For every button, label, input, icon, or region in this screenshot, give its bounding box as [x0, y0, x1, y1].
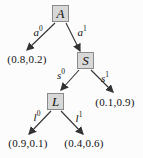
- node-A-label: A: [57, 7, 65, 20]
- tree-edges: [0, 0, 143, 158]
- leaf-l1-value: (0.4,0.6): [64, 138, 103, 149]
- edge-label-l1: l1: [76, 113, 83, 124]
- edge-label-l0: l0: [34, 112, 41, 123]
- leaf-l0-value: (0.9,0.1): [8, 138, 47, 149]
- leaf-a0-value: (0.8,0.2): [7, 54, 46, 65]
- leaf-s1-value: (0.1,0.9): [95, 97, 134, 108]
- edge-label-s0: s0: [57, 70, 65, 81]
- decision-tree-figure: A S L a0 a1 s0 s1 l0 l1 (0.8,0.2) (0.1,0…: [0, 0, 143, 158]
- node-S-label: S: [82, 54, 89, 67]
- edge-label-a1: a1: [77, 27, 86, 38]
- node-S: S: [77, 52, 94, 69]
- edge-label-a0: a0: [33, 27, 42, 38]
- node-L: L: [47, 93, 64, 110]
- node-A: A: [52, 5, 69, 22]
- edge-label-s1: s1: [101, 73, 109, 84]
- node-L-label: L: [52, 95, 59, 108]
